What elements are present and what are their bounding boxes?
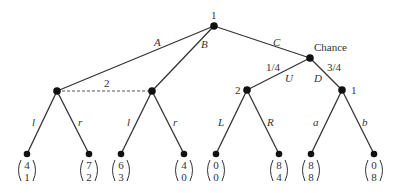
edge-b [342,90,374,154]
edge-label-r-mid: r [173,116,178,128]
chance-label: Chance [314,41,347,53]
edge-r-mid [152,91,184,154]
root-player-label: 1 [211,9,217,21]
svg-text:3: 3 [118,171,124,183]
payoff-vector: 6 3 [113,159,130,183]
info-set-label: 2 [104,77,110,89]
svg-text:0: 0 [181,171,187,183]
payoff-vector: 4 0 [176,159,193,183]
payoff-vector: 0 0 [208,159,225,183]
svg-text:8: 8 [371,171,377,183]
terminal-node [371,151,378,158]
edge-label-C: C [273,36,281,48]
payoff-vector: 8 4 [271,159,288,183]
root-node [210,22,218,30]
svg-text:1: 1 [24,171,30,183]
edge-B [152,26,214,91]
player2-U-label: 2 [235,84,241,96]
edge-label-L: L [217,116,224,128]
terminal-node [86,151,93,158]
edge-label-A: A [153,36,161,48]
payoff-vector: 7 2 [81,159,98,183]
terminal-node [213,151,220,158]
payoff-vector: 0 8 [366,159,383,183]
svg-text:7: 7 [86,159,92,171]
game-tree-diagram: 1 Chance 2 1 2 A B C 1/4 U D 3/4 l r l r… [0,0,401,193]
player2-mid-node [148,87,156,95]
terminal-node [276,151,283,158]
payoff-vector: 4 1 [19,159,36,183]
edge-label-B: B [201,38,208,50]
edge-label-r-left: r [78,116,83,128]
svg-text:4: 4 [276,171,282,183]
edge-R [247,90,279,154]
prob-label-D: 3/4 [327,61,342,73]
edge-label-R: R [266,116,274,128]
svg-text:8: 8 [308,171,314,183]
svg-text:4: 4 [24,159,30,171]
terminal-node [24,151,31,158]
edge-label-a: a [313,116,319,128]
svg-text:4: 4 [181,159,187,171]
edge-l-mid [121,91,152,154]
edge-A [57,26,214,91]
prob-label-U: 1/4 [266,61,281,73]
svg-text:6: 6 [118,159,124,171]
player2-left-node [53,87,61,95]
svg-text:8: 8 [276,159,282,171]
svg-text:0: 0 [371,159,377,171]
chance-node [306,54,314,62]
terminal-node [181,151,188,158]
svg-text:8: 8 [308,159,314,171]
player2-U-node [243,86,251,94]
svg-text:2: 2 [86,171,92,183]
edge-label-l-left: l [32,116,35,128]
terminal-node [308,151,315,158]
player1-D-label: 1 [351,84,357,96]
edge-r-left [57,91,89,154]
svg-text:0: 0 [213,159,219,171]
svg-text:0: 0 [213,171,219,183]
edge-label-b: b [362,116,368,128]
edge-label-D: D [313,72,322,84]
terminal-node [118,151,125,158]
player1-D-node [338,86,346,94]
edge-C [214,26,310,58]
payoff-vector: 8 8 [303,159,320,183]
edge-label-U: U [285,72,294,84]
edge-label-l-mid: l [127,116,130,128]
